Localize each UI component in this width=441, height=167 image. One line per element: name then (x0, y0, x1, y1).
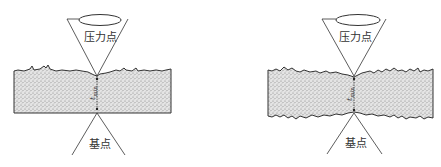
lower-measure-point-right (353, 109, 355, 111)
right-panel: 压力点 tmin 基点 (268, 15, 433, 155)
pressure-point-label-left: 压力点 (84, 31, 117, 44)
base-point-label-left: 基点 (89, 138, 111, 151)
upper-measure-point-right (353, 78, 355, 80)
pressure-point-cone-right (322, 15, 386, 77)
pressure-point-cone-left (67, 15, 128, 77)
left-panel: 压力点 tmin 基点 (14, 15, 171, 156)
pressure-foot-ellipse-right (336, 15, 380, 26)
base-point-label-right: 基点 (345, 137, 367, 150)
diagram-canvas: 压力点 tmin 基点 压力点 tmin 基点 (0, 0, 441, 167)
lower-measure-point-left (96, 108, 98, 110)
pressure-point-label-right: 压力点 (339, 31, 372, 44)
pressure-foot-ellipse-left (79, 15, 121, 26)
upper-measure-point-left (96, 78, 98, 80)
